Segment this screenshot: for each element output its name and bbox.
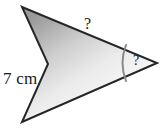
geometry-figure-canvas: 7 cm ? ?: [0, 0, 163, 128]
unknown-side-label: ?: [84, 16, 91, 32]
side-length-label: 7 cm: [3, 70, 37, 87]
unknown-angle-label: ?: [133, 54, 139, 68]
